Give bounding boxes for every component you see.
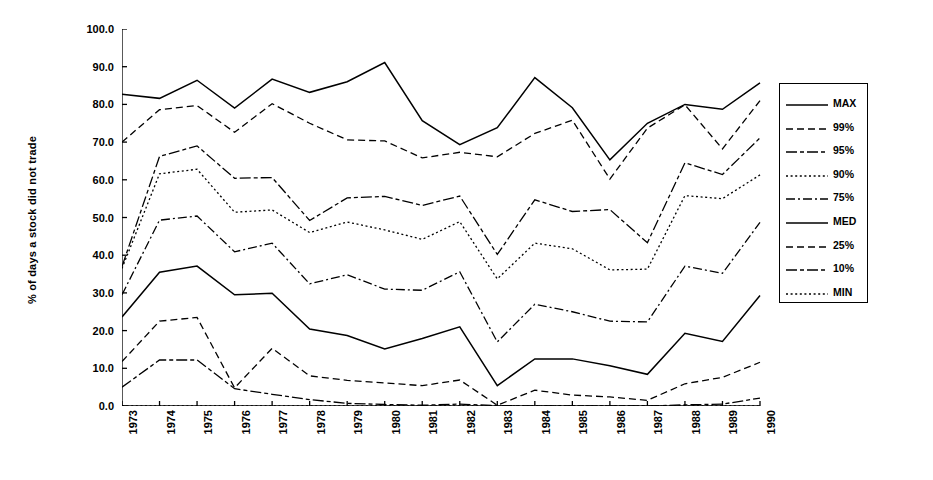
x-tick-label: 1977 — [277, 410, 289, 434]
legend-item-label: 99% — [833, 121, 854, 133]
legend-item-max[interactable]: MAX — [780, 91, 867, 115]
plot-lines — [122, 29, 770, 406]
plot-area — [122, 29, 770, 406]
x-tick-label: 1989 — [727, 410, 739, 434]
x-tick-label: 1979 — [352, 410, 364, 434]
x-tick-label: 1973 — [127, 410, 139, 434]
x-tick-label: 1974 — [165, 410, 177, 434]
legend-item-99pct[interactable]: 99% — [780, 115, 867, 139]
x-tick-label: 1987 — [652, 410, 664, 434]
x-tick-label: 1986 — [615, 410, 627, 434]
y-axis-tick-labels: 0.010.020.030.040.050.060.070.080.090.01… — [64, 29, 114, 406]
x-tick-label: 1975 — [202, 410, 214, 434]
legend-line-sample — [785, 121, 829, 133]
legend-line-sample — [785, 286, 829, 298]
legend-line-sample — [785, 215, 829, 227]
series-line-95pct — [122, 138, 760, 267]
y-tick-label: 40.0 — [68, 249, 114, 261]
x-tick-label: 1990 — [765, 410, 777, 434]
legend-item-90pct[interactable]: 90% — [780, 162, 867, 186]
chart-figure: % of days a stock did not trade 0.010.02… — [0, 0, 933, 480]
x-tick-label: 1983 — [502, 410, 514, 434]
series-line-90pct — [122, 169, 760, 279]
legend-item-label: MED — [833, 215, 856, 227]
x-axis-tick-labels: 1973197419751976197719781979198019811982… — [122, 410, 770, 480]
legend-line-sample — [785, 168, 829, 180]
legend-line-sample — [785, 191, 829, 203]
legend-item-label: 90% — [833, 168, 854, 180]
legend-line-sample — [785, 262, 829, 274]
y-axis-title-text: % of days a stock did not trade — [26, 100, 38, 340]
x-tick-label: 1988 — [690, 410, 702, 434]
series-line-max — [122, 63, 760, 160]
y-tick-label: 100.0 — [68, 23, 114, 35]
legend-line-sample — [785, 97, 829, 109]
y-tick-label: 50.0 — [68, 212, 114, 224]
y-tick-label: 30.0 — [68, 287, 114, 299]
legend-item-label: 25% — [833, 239, 854, 251]
legend-item-med[interactable]: MED — [780, 209, 867, 233]
series-line-75pct — [122, 216, 760, 342]
legend-line-sample — [785, 239, 829, 251]
x-tick-label: 1985 — [577, 410, 589, 434]
legend-item-label: 95% — [833, 144, 854, 156]
y-tick-label: 0.0 — [68, 400, 114, 412]
x-tick-label: 1980 — [390, 410, 402, 434]
legend-item-label: 10% — [833, 262, 854, 274]
legend-line-sample — [785, 144, 829, 156]
y-tick-label: 10.0 — [68, 362, 114, 374]
x-tick-label: 1984 — [540, 410, 552, 434]
x-tick-label: 1976 — [240, 410, 252, 434]
series-line-med — [122, 266, 760, 386]
y-tick-label: 90.0 — [68, 61, 114, 73]
legend-item-min[interactable]: MIN — [780, 280, 867, 304]
series-line-25pct — [122, 317, 760, 405]
legend-item-10pct[interactable]: 10% — [780, 256, 867, 280]
legend-item-25pct[interactable]: 25% — [780, 233, 867, 257]
y-tick-label: 70.0 — [68, 136, 114, 148]
x-tick-label: 1981 — [427, 410, 439, 434]
y-tick-label: 60.0 — [68, 174, 114, 186]
legend-item-75pct[interactable]: 75% — [780, 185, 867, 209]
legend-item-label: MAX — [833, 97, 856, 109]
y-tick-label: 80.0 — [68, 98, 114, 110]
series-line-99pct — [122, 101, 760, 179]
y-tick-label: 20.0 — [68, 325, 114, 337]
axis-lines — [122, 29, 760, 406]
legend-item-label: 75% — [833, 191, 854, 203]
legend-item-95pct[interactable]: 95% — [780, 138, 867, 162]
legend-item-label: MIN — [833, 286, 852, 298]
x-tick-label: 1982 — [465, 410, 477, 434]
series-line-10pct — [122, 360, 760, 406]
legend-box: MAX99%95%90%75%MED25%10%MIN — [779, 83, 868, 303]
y-axis-title: % of days a stock did not trade — [26, 0, 38, 100]
x-tick-label: 1978 — [315, 410, 327, 434]
